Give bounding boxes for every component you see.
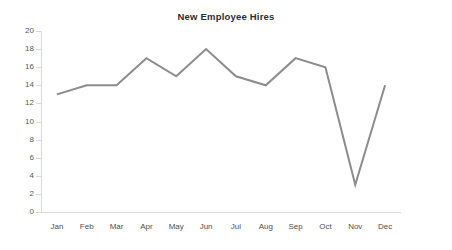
y-axis-tick-label: 6: [4, 154, 34, 162]
y-axis-line: [41, 31, 42, 213]
y-axis-tick: [36, 31, 41, 32]
y-axis-labels: 02468101214161820: [0, 0, 34, 250]
y-axis-tick: [36, 49, 41, 50]
y-axis-tick: [36, 85, 41, 86]
y-axis-tick-label: 8: [4, 136, 34, 144]
line-chart: New Employee Hires 02468101214161820 Jan…: [0, 0, 452, 250]
x-axis-line: [41, 212, 401, 213]
y-axis-tick-label: 0: [4, 208, 34, 216]
y-axis-tick: [36, 67, 41, 68]
chart-title: New Employee Hires: [0, 11, 452, 22]
y-axis-tick: [36, 194, 41, 195]
series-polyline: [57, 49, 385, 185]
y-axis-tick: [36, 103, 41, 104]
y-axis-tick: [36, 122, 41, 123]
y-axis-tick-label: 10: [4, 118, 34, 126]
y-axis-tick: [36, 176, 41, 177]
y-axis-tick-label: 16: [4, 63, 34, 71]
y-axis-tick-label: 4: [4, 172, 34, 180]
y-axis-tick-label: 20: [4, 27, 34, 35]
y-axis-tick-label: 12: [4, 99, 34, 107]
y-axis-tick: [36, 158, 41, 159]
y-axis-tick-label: 14: [4, 81, 34, 89]
y-axis-tick-label: 18: [4, 45, 34, 53]
y-axis-tick: [36, 212, 41, 213]
y-axis-tick-label: 2: [4, 190, 34, 198]
y-axis-tick: [36, 140, 41, 141]
x-axis-tick-label: Dec: [365, 222, 405, 231]
